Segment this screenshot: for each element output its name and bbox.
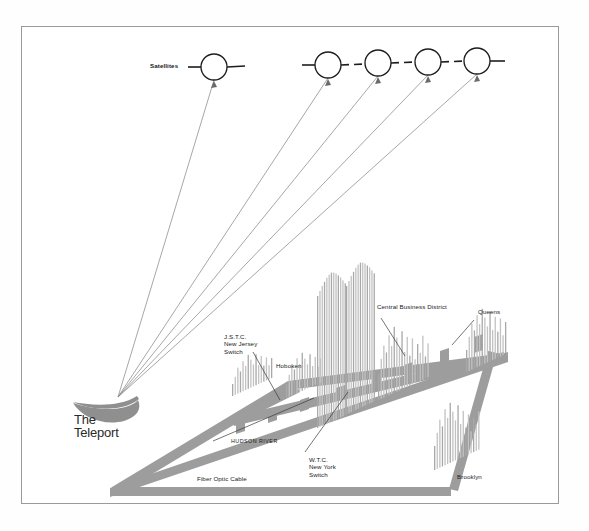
teleport-line-2: Teleport — [74, 426, 119, 439]
building-bar — [353, 272, 354, 411]
building-bar — [434, 446, 435, 470]
building-bar — [351, 276, 352, 412]
building-bar — [439, 420, 440, 468]
satellite-icon — [315, 52, 341, 78]
building-bar — [505, 322, 506, 354]
building-bar — [302, 353, 303, 391]
building-bar — [470, 431, 471, 453]
building-bar — [331, 273, 332, 422]
building-bar — [495, 317, 496, 359]
building-bar — [417, 344, 418, 382]
building-bar — [329, 275, 330, 423]
satellite-icon — [464, 48, 490, 74]
building-bar — [250, 360, 251, 388]
building-bar — [401, 331, 402, 389]
building-bar — [492, 330, 493, 360]
building-bar — [286, 384, 287, 398]
building-bar — [242, 361, 243, 391]
building-bar — [248, 355, 249, 389]
building-bar — [360, 263, 361, 408]
building-bar — [342, 280, 343, 416]
beam-arrowheads — [211, 75, 480, 88]
satellite-icon — [415, 49, 441, 75]
building-bar — [420, 353, 421, 381]
building-bar — [437, 433, 438, 469]
building-bar — [235, 377, 236, 395]
building-bar — [291, 366, 292, 396]
building-bar — [468, 414, 469, 454]
building-bar — [404, 352, 405, 388]
building-bar — [271, 358, 272, 378]
building-bar — [348, 281, 349, 413]
building-bar — [268, 365, 269, 379]
building-bar — [338, 275, 339, 418]
central-business-district-label: Central Business District — [377, 303, 447, 310]
building-bar — [399, 348, 400, 390]
building-bar — [358, 265, 359, 409]
building-bar — [386, 352, 387, 396]
building-bar — [484, 318, 485, 364]
building-bar — [391, 346, 392, 394]
building-bar — [364, 264, 365, 406]
building-bar — [473, 418, 474, 452]
jstc-label: J.S.T.C. New Jersey Switch — [224, 333, 257, 355]
building-bar — [412, 338, 413, 384]
teleport-line-1: The — [74, 413, 119, 426]
building-bar — [294, 369, 295, 394]
building-bar — [240, 371, 241, 392]
teleport-wordmark: The Teleport — [74, 413, 119, 440]
building-bar — [476, 315, 477, 367]
building-bar — [422, 336, 423, 380]
hoboken-label: Hoboken — [276, 362, 301, 369]
diagram-svg — [0, 0, 589, 531]
building-bar — [487, 326, 488, 362]
building-bar — [388, 335, 389, 395]
building-bar — [322, 286, 323, 426]
building-bar — [465, 428, 466, 456]
building-bar — [455, 420, 456, 460]
building-bar — [489, 311, 490, 361]
building-bar — [457, 405, 458, 459]
building-bar — [371, 270, 372, 402]
building-bar — [367, 265, 368, 404]
building-bar — [425, 356, 426, 378]
building-bar — [335, 274, 336, 420]
building-bar — [396, 338, 397, 392]
building-bar — [474, 330, 475, 368]
building-bar — [444, 409, 445, 465]
building-bar — [502, 335, 503, 355]
building-bar — [463, 411, 464, 457]
satellite-icon — [201, 54, 227, 80]
building-bar — [374, 273, 375, 401]
building-bar — [381, 359, 382, 399]
building-bar — [427, 343, 428, 377]
building-bar — [476, 425, 477, 451]
building-bar — [253, 364, 254, 386]
building-bar — [471, 324, 472, 370]
building-bar — [383, 346, 384, 398]
building-bar — [237, 368, 238, 394]
building-bar — [500, 318, 501, 356]
building-bar — [307, 364, 308, 388]
building-bar — [407, 337, 408, 387]
building-bar — [466, 350, 467, 372]
building-bar — [333, 273, 334, 421]
hudson-river-label: HUDSON RIVER — [231, 438, 278, 444]
building-bar — [469, 337, 470, 371]
building-bar — [452, 412, 453, 462]
satellite-icon — [365, 50, 391, 76]
building-bar — [289, 375, 290, 397]
fiber-optic-cable-label: Fiber Optic Cable — [197, 475, 247, 482]
wtc-label: W.T.C. New York Switch — [309, 456, 336, 478]
queens-leader — [452, 320, 474, 345]
building-bar — [479, 324, 480, 366]
building-bar — [355, 268, 356, 410]
building-bar — [447, 418, 448, 464]
building-bar — [497, 332, 498, 358]
skyline-hoboken — [286, 353, 321, 398]
brooklyn-label: Brooklyn — [457, 473, 482, 480]
building-bar — [362, 263, 363, 407]
building-bar — [326, 278, 327, 424]
building-bar — [263, 366, 264, 382]
queens-label: Queens — [478, 308, 500, 315]
